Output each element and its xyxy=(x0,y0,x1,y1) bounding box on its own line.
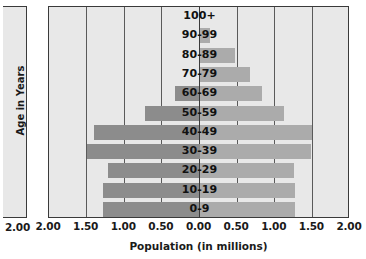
y-axis-label: Age in Years xyxy=(15,54,26,148)
bar-left xyxy=(103,183,199,198)
bar-left xyxy=(87,144,200,159)
bar-left xyxy=(103,202,199,217)
bar-right xyxy=(200,125,313,140)
bar-right xyxy=(200,67,250,82)
x-axis-tick: 1.00 xyxy=(254,220,294,232)
x-axis-tick: 1.50 xyxy=(291,220,331,232)
x-axis-ticks: 2.001.501.000.500.000.501.001.502.00 xyxy=(48,220,349,234)
bar-left xyxy=(175,86,200,101)
x-axis-tick: 0.50 xyxy=(141,220,181,232)
bar-right xyxy=(200,144,311,159)
bar-row: 60-69 xyxy=(49,86,348,101)
bar-right xyxy=(200,202,296,217)
bar-row: 90-99 xyxy=(49,28,348,43)
bar-row: 10-19 xyxy=(49,183,348,198)
x-axis-tick: 0.00 xyxy=(179,220,219,232)
bar-row: 80-89 xyxy=(49,48,348,63)
x-axis-label: Population (in millions) xyxy=(48,240,349,252)
bar-rows: 100+90-9980-8970-7960-6950-5940-4930-392… xyxy=(49,7,348,217)
bar-row: 0-9 xyxy=(49,202,348,217)
x-axis-tick: 0.50 xyxy=(216,220,256,232)
bar-row: 40-49 xyxy=(49,125,348,140)
x-axis-tick: 1.00 xyxy=(103,220,143,232)
x-axis-tick: 2.00 xyxy=(28,220,68,232)
plot-area: 100+90-9980-8970-7960-6950-5940-4930-392… xyxy=(48,6,349,218)
bar-right xyxy=(200,48,235,63)
age-group-label: 100+ xyxy=(49,8,350,24)
bar-right xyxy=(200,86,262,101)
bar-right xyxy=(200,163,294,178)
bar-row: 70-79 xyxy=(49,67,348,82)
bar-right xyxy=(200,28,211,43)
bar-row: 20-29 xyxy=(49,163,348,178)
bar-right xyxy=(200,106,284,121)
bar-row: 100+ xyxy=(49,9,348,24)
bar-left xyxy=(145,106,200,121)
bar-row: 30-39 xyxy=(49,144,348,159)
bar-left xyxy=(108,163,200,178)
x-axis-tick: 2.00 xyxy=(329,220,366,232)
bar-right xyxy=(200,183,296,198)
adjacent-chart-axis-tick: 2.00 xyxy=(0,221,30,233)
x-axis-tick: 1.50 xyxy=(66,220,106,232)
bar-left xyxy=(94,125,199,140)
bar-row: 50-59 xyxy=(49,106,348,121)
